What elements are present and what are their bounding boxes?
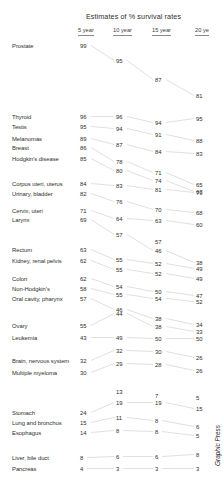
- data-value: 71: [80, 208, 86, 214]
- data-value: 81: [155, 187, 161, 193]
- row-label: Non-Hodgkin's: [12, 286, 50, 292]
- row-label: Pancreas: [12, 466, 37, 472]
- column-header-5-year: 5 year: [78, 27, 94, 36]
- data-value: 55: [80, 323, 86, 329]
- data-value: 30: [155, 349, 161, 355]
- data-value: 80: [116, 168, 122, 174]
- data-value: 32: [116, 348, 122, 354]
- data-value: 64: [116, 216, 122, 222]
- data-value: 95: [196, 116, 202, 122]
- data-value: 28: [155, 362, 161, 368]
- column-header-20-year: 20 ye: [195, 27, 209, 36]
- row-label: Brain, nervous system: [12, 358, 69, 364]
- data-value: 34: [196, 322, 202, 328]
- row-label: Thyroid: [12, 114, 31, 120]
- data-value: 91: [155, 132, 161, 138]
- row-label: Multiple myeloma: [12, 370, 57, 376]
- data-value: 24: [80, 410, 86, 416]
- row-label: Urinary, bladder: [12, 191, 53, 197]
- data-value: 54: [116, 284, 122, 290]
- data-value: 49: [196, 266, 202, 272]
- data-value: 78: [116, 159, 122, 165]
- data-value: 43: [80, 335, 86, 341]
- data-value: 4: [80, 466, 83, 472]
- chart-title-text: Estimates of % survival rates: [86, 12, 181, 21]
- data-value: 96: [80, 114, 86, 120]
- data-value: 89: [80, 136, 86, 142]
- data-value: 86: [80, 145, 86, 151]
- data-value: 84: [155, 149, 161, 155]
- data-value: 58: [80, 286, 86, 292]
- data-value: 94: [116, 126, 122, 132]
- data-value: 15: [196, 406, 202, 412]
- data-value: 55: [116, 257, 122, 263]
- credit-label: Graphic Press: [214, 410, 221, 482]
- data-value: 87: [155, 77, 161, 83]
- data-value: 76: [116, 199, 122, 205]
- data-value: 50: [155, 336, 161, 342]
- data-value: 49: [116, 335, 122, 341]
- data-value: 79: [196, 190, 202, 196]
- data-value: 33: [196, 329, 202, 335]
- row-label: Prostate: [12, 43, 34, 49]
- row-label: Rectum: [12, 247, 32, 253]
- data-value: 11: [116, 415, 122, 421]
- data-value: 14: [80, 430, 86, 436]
- row-label: Oral cavity, pharynx: [12, 296, 63, 302]
- chart-title: Estimates of % survival rates: [0, 12, 223, 21]
- data-value: 26: [196, 368, 202, 374]
- data-value: 57: [155, 239, 161, 245]
- data-value: 52: [155, 271, 161, 277]
- slopegraph-chart: Estimates of % survival rates 5 year 10 …: [0, 0, 223, 487]
- data-value: 62: [80, 258, 86, 264]
- data-value: 68: [196, 210, 202, 216]
- data-value: 95: [116, 58, 122, 64]
- data-value: 70: [155, 207, 161, 213]
- data-value: 49: [196, 276, 202, 282]
- data-value: 81: [196, 93, 202, 99]
- data-value: 8: [116, 428, 119, 434]
- data-value: 3: [196, 466, 199, 472]
- row-label: Lung and bronchus: [12, 420, 62, 426]
- row-label: Ovary: [12, 323, 27, 329]
- data-value: 71: [155, 170, 161, 176]
- data-value: 26: [196, 355, 202, 361]
- data-value: 8: [80, 455, 83, 461]
- data-value: 55: [116, 267, 122, 273]
- data-value: 62: [80, 276, 86, 282]
- data-value: 95: [80, 124, 86, 130]
- data-value: 29: [116, 361, 122, 367]
- data-value: 46: [155, 248, 161, 254]
- row-label: Larynx: [12, 217, 29, 223]
- data-value: 3: [155, 466, 158, 472]
- row-label: Colon: [12, 276, 27, 282]
- data-value: 82: [80, 191, 86, 197]
- data-value: 15: [80, 420, 86, 426]
- row-label: Stomach: [12, 410, 35, 416]
- data-value: 57: [116, 232, 122, 238]
- row-label: Melanomas: [12, 136, 42, 142]
- data-value: 94: [155, 120, 161, 126]
- data-value: 52: [196, 299, 202, 305]
- row-label: Esophagus: [12, 430, 41, 436]
- data-value: 99: [80, 43, 86, 49]
- row-label: Hodgkin's disease: [12, 156, 59, 162]
- data-value: 85: [80, 156, 86, 162]
- column-header-10-year: 10 year: [113, 27, 132, 36]
- data-value: 74: [155, 178, 161, 184]
- row-label: Kidney, renal pelvis: [12, 258, 62, 264]
- row-label: Breast: [12, 145, 29, 151]
- column-header-15-year: 15 year: [152, 27, 171, 36]
- data-value: 5: [196, 395, 199, 401]
- data-value: 30: [80, 370, 86, 376]
- data-value: 19: [116, 400, 122, 406]
- data-value: 84: [80, 181, 86, 187]
- data-value: 60: [196, 222, 202, 228]
- data-value: 96: [116, 114, 122, 120]
- data-value: 69: [80, 217, 86, 223]
- data-value: 50: [196, 336, 202, 342]
- data-value: 8: [196, 452, 199, 458]
- data-value: 87: [116, 142, 122, 148]
- data-value: 38: [155, 324, 161, 330]
- row-label: Cervix, uteri: [12, 208, 43, 214]
